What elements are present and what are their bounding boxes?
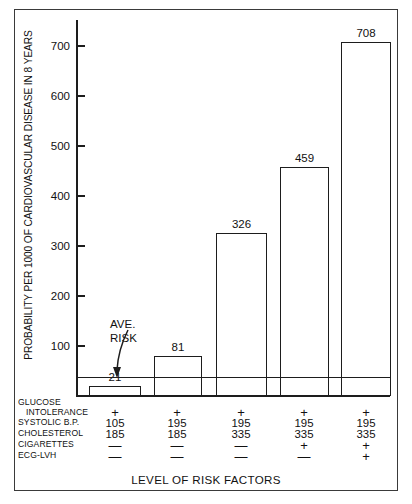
average-risk-arrow-icon bbox=[104, 328, 144, 380]
risk-factor-row-label: ECG-LVH bbox=[18, 451, 56, 460]
y-axis-line bbox=[76, 20, 78, 397]
y-tick-mark bbox=[78, 45, 85, 46]
risk-factor-row-label: GLUCOSE bbox=[18, 398, 61, 407]
risk-factor-cell: — bbox=[221, 452, 261, 461]
y-tick-label: 300 bbox=[40, 241, 70, 252]
risk-factor-cell: + bbox=[284, 408, 324, 417]
y-tick-mark bbox=[78, 295, 85, 296]
y-tick-label: 200 bbox=[40, 291, 70, 302]
risk-factor-cell: 195 bbox=[157, 418, 197, 429]
risk-factor-row-label: SYSTOLIC B.P. bbox=[18, 418, 79, 427]
risk-factor-cell: + bbox=[346, 408, 386, 417]
risk-factor-cell: — bbox=[157, 452, 197, 461]
risk-factor-cell: — bbox=[284, 452, 324, 461]
y-tick-mark bbox=[78, 195, 85, 196]
y-axis-title: PROBABILITY PER 1000 OF CARDIOVASCULAR D… bbox=[22, 5, 35, 385]
bar-value-label: 326 bbox=[216, 218, 267, 230]
y-tick-mark bbox=[78, 345, 85, 346]
risk-factor-cell: + bbox=[157, 408, 197, 417]
risk-factor-cell: + bbox=[221, 408, 261, 417]
risk-factor-cell: — bbox=[95, 452, 135, 461]
bar bbox=[341, 42, 391, 396]
bar-value-label: 708 bbox=[341, 27, 391, 39]
bar-value-label: 81 bbox=[154, 341, 202, 353]
risk-factor-table: GLUCOSEINTOLERANCESYSTOLIC B.P.CHOLESTER… bbox=[18, 398, 394, 464]
risk-factor-cell: 195 bbox=[346, 418, 386, 429]
y-tick-label: 400 bbox=[40, 191, 70, 202]
y-tick-label: 600 bbox=[40, 91, 70, 102]
risk-factor-cell: + bbox=[346, 452, 386, 461]
risk-factor-cell: 195 bbox=[221, 418, 261, 429]
risk-factor-row-label: CIGARETTES bbox=[18, 440, 74, 449]
risk-factor-cell: + bbox=[95, 408, 135, 417]
y-tick-label: 500 bbox=[40, 141, 70, 152]
y-tick-mark bbox=[78, 245, 85, 246]
y-tick-mark bbox=[78, 95, 85, 96]
bar bbox=[280, 167, 329, 397]
y-tick-label: 700 bbox=[40, 41, 70, 52]
x-axis-title: LEVEL OF RISK FACTORS bbox=[0, 473, 412, 486]
risk-factor-cell: 195 bbox=[284, 418, 324, 429]
bar bbox=[216, 233, 267, 396]
risk-factor-row-label: CHOLESTEROL bbox=[18, 429, 83, 438]
y-tick-label: 100 bbox=[40, 341, 70, 352]
bar-value-label: 459 bbox=[280, 152, 329, 164]
figure-bar-chart-cardiovascular-risk: PROBABILITY PER 1000 OF CARDIOVASCULAR D… bbox=[0, 0, 412, 504]
risk-factor-cell: 105 bbox=[95, 418, 135, 429]
y-tick-mark bbox=[78, 145, 85, 146]
bar bbox=[89, 386, 141, 397]
risk-factor-row-label: INTOLERANCE bbox=[26, 408, 88, 417]
